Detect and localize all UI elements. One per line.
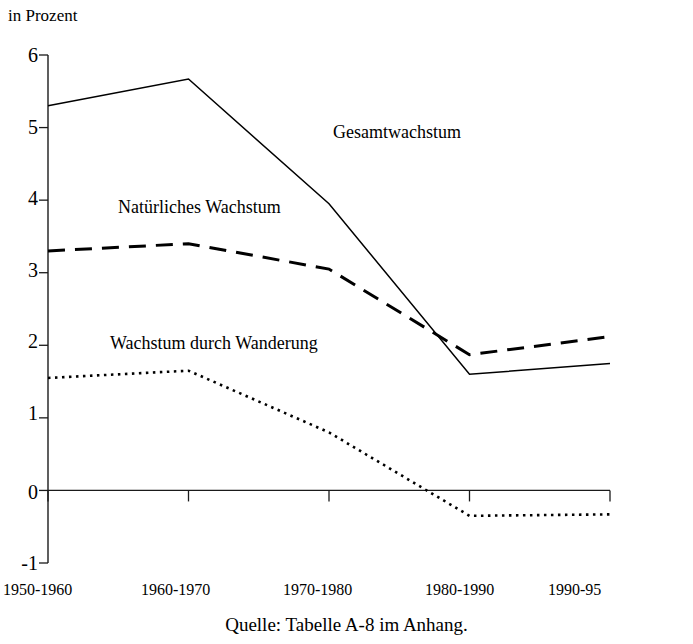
series-annotation-natuerliches-wachstum: Natürliches Wachstum (118, 197, 281, 217)
y-axis-unit-label: in Prozent (8, 6, 77, 26)
y-tick-label-4: 4 (4, 188, 38, 208)
chart-figure: in Prozent 6 5 4 3 2 1 0 -1 1950-1960 19… (0, 0, 693, 644)
x-tick-label-1980-1990: 1980-1990 (425, 581, 494, 599)
y-tick-label-minus-1: -1 (4, 553, 38, 573)
x-tick-label-1990-95: 1990-95 (548, 581, 601, 599)
source-note: Quelle: Tabelle A-8 im Anhang. (0, 614, 693, 636)
x-tick-label-1970-1980: 1970-1980 (283, 581, 352, 599)
y-tick-label-3: 3 (4, 260, 38, 280)
y-tick-label-1: 1 (4, 403, 38, 423)
y-tick-label-0: 0 (4, 482, 38, 502)
x-tick-label-1960-1970: 1960-1970 (141, 581, 210, 599)
plot-area (0, 0, 693, 644)
y-tick-label-2: 2 (4, 331, 38, 351)
y-tick-label-6: 6 (4, 45, 38, 65)
axes-group (39, 55, 610, 563)
series-annotation-gesamtwachstum: Gesamtwachstum (333, 122, 461, 142)
x-axis-ticks (48, 490, 610, 501)
series-line-gesamtwachstum (48, 79, 610, 374)
y-tick-label-5: 5 (4, 117, 38, 137)
series-group (48, 79, 610, 516)
series-annotation-wachstum-durch-wanderung: Wachstum durch Wanderung (110, 333, 318, 353)
y-axis-ticks (39, 55, 48, 563)
x-tick-label-1950-1960: 1950-1960 (3, 581, 72, 599)
